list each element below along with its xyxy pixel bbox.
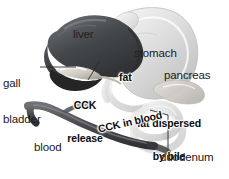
- label-stomach: stomach: [134, 48, 177, 60]
- cck-digestion-diagram: gall bladder liver stomach pancreas CCK …: [0, 0, 229, 179]
- label-fat: fat: [119, 72, 132, 83]
- label-pancreas: pancreas: [164, 70, 211, 82]
- label-fat-dispersed-by-bile: fat dispersed by bile: [127, 97, 211, 179]
- label-duodenum: duodenum: [160, 152, 214, 164]
- label-blood-vessel-line2: vessel: [34, 178, 66, 179]
- label-gall-bladder-line1: gall: [3, 78, 41, 90]
- label-cck-release-line1: CCK: [62, 100, 108, 111]
- label-blood-vessel: blood vessel: [34, 119, 66, 179]
- label-blood-vessel-line1: blood: [34, 142, 66, 154]
- label-liver: liver: [73, 29, 94, 41]
